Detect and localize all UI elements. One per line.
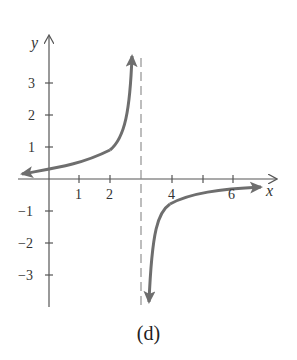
x-tick-label-1: 1 [75, 187, 82, 202]
y-tick-label-3: 3 [28, 76, 35, 91]
curve-left-branch-upper [110, 56, 132, 150]
y-tick-label-1: 1 [28, 140, 35, 155]
x-tick-label-6: 6 [228, 187, 235, 202]
curve-right-branch-upper [170, 187, 261, 204]
chart-canvas: y x 1 2 4 6 3 2 1 −1 −2 −3 [0, 0, 297, 360]
y-tick-label-2: 2 [28, 108, 35, 123]
x-tick-label-4: 4 [168, 187, 175, 202]
curve-right-branch-lower [149, 204, 170, 302]
x-axis-label: x [265, 182, 273, 199]
y-axis-label: y [29, 34, 39, 52]
x-tick-label-2: 2 [106, 187, 113, 202]
y-tick-label-neg1: −1 [18, 204, 33, 219]
curve-left-branch-path [22, 150, 110, 174]
figure-caption: (d) [0, 322, 297, 345]
y-tick-label-neg2: −2 [18, 236, 33, 251]
y-tick-label-neg3: −3 [18, 268, 33, 283]
